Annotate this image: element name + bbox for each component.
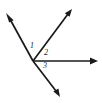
angle-label-1: 1 [30,42,34,50]
angle-label-3: 3 [43,62,47,70]
angle-label-2: 2 [44,49,48,57]
angle-figure-svg [0,0,102,103]
ray-upper-right-segment [33,14,68,61]
angle-figure: 1 2 3 [0,0,102,103]
arrow-right-icon [90,57,98,64]
arrow-upper-left-icon [6,13,14,23]
